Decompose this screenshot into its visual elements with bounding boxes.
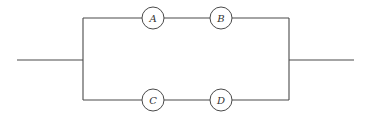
component-a: A xyxy=(142,7,164,29)
component-c: C xyxy=(142,89,164,111)
component-b-label: B xyxy=(216,13,224,24)
component-b: B xyxy=(210,7,232,29)
component-a-label: A xyxy=(148,13,156,24)
component-d: D xyxy=(210,89,232,111)
parallel-circuit-diagram: A B C D xyxy=(0,0,374,119)
component-c-label: C xyxy=(149,95,157,106)
component-d-label: D xyxy=(216,95,225,106)
